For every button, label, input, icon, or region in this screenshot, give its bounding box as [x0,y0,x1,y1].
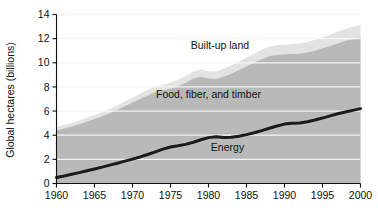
x-tick-label-1985: 1985 [235,189,259,201]
x-tick-label-1970: 1970 [121,189,145,201]
x-tick-label-1975: 1975 [159,189,183,201]
y-tick-label-14: 14 [38,8,50,20]
stacked-area-chart: 0246810121419601965197019751980198519901… [0,0,378,211]
y-tick-label-10: 10 [38,56,50,68]
y-tick-label-4: 4 [44,129,50,141]
y-tick-label-2: 2 [44,153,50,165]
x-tick-label-1980: 1980 [197,189,221,201]
x-tick-label-1995: 1995 [311,189,335,201]
y-tick-label-0: 0 [44,177,50,189]
y-axis-title: Global hectares (billions) [4,42,16,158]
y-tick-label-6: 6 [44,105,50,117]
food-fiber-timber-label: Food, fiber, and timber [156,88,262,100]
x-tick-label-1965: 1965 [83,189,107,201]
chart-figure: 0246810121419601965197019751980198519901… [0,0,378,211]
energy-label: Energy [211,141,245,153]
x-tick-label-1990: 1990 [273,189,297,201]
y-tick-label-12: 12 [38,32,50,44]
x-tick-label-1960: 1960 [45,189,69,201]
built-up-land-label: Built-up land [191,39,250,51]
x-tick-label-2000: 2000 [349,189,373,201]
y-tick-label-8: 8 [44,81,50,93]
